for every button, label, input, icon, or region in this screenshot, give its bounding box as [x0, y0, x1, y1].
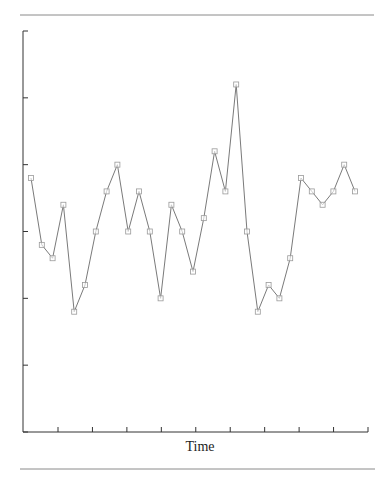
data-point-marker	[342, 162, 347, 167]
data-point-marker	[61, 202, 66, 207]
data-point-marker	[277, 296, 282, 301]
data-point-marker	[331, 189, 336, 194]
data-point-marker	[353, 189, 358, 194]
data-point-marker	[201, 216, 206, 221]
y-axis	[23, 31, 28, 432]
data-point-marker	[83, 282, 88, 287]
data-point-marker	[29, 176, 34, 181]
data-point-marker	[158, 296, 163, 301]
data-point-marker	[115, 162, 120, 167]
x-axis	[23, 427, 368, 432]
data-point-marker	[39, 242, 44, 247]
line-chart	[0, 0, 392, 483]
x-axis-title: Time	[185, 439, 214, 454]
data-point-marker	[72, 309, 77, 314]
data-point-marker	[126, 229, 131, 234]
data-point-marker	[169, 202, 174, 207]
data-point-marker	[93, 229, 98, 234]
data-point-marker	[180, 229, 185, 234]
data-point-marker	[50, 256, 55, 261]
series-line	[31, 84, 355, 311]
data-point-marker	[191, 269, 196, 274]
data-point-marker	[255, 309, 260, 314]
data-point-marker	[147, 229, 152, 234]
data-point-marker	[223, 189, 228, 194]
data-series	[29, 82, 358, 314]
data-point-marker	[299, 176, 304, 181]
data-point-marker	[288, 256, 293, 261]
data-point-marker	[212, 149, 217, 154]
x-axis-label: Time	[0, 439, 392, 455]
data-point-marker	[104, 189, 109, 194]
data-point-marker	[245, 229, 250, 234]
data-point-marker	[137, 189, 142, 194]
data-point-marker	[266, 282, 271, 287]
data-point-marker	[234, 82, 239, 87]
data-point-marker	[309, 189, 314, 194]
data-point-marker	[320, 202, 325, 207]
